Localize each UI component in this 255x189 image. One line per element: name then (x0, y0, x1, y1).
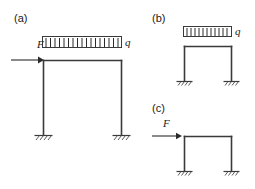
load-label-b: q (235, 25, 241, 37)
support-c-right (224, 172, 240, 176)
panel-a-point-load: F (11, 38, 44, 63)
load-label-a: q (125, 36, 131, 48)
load-ticks-b (187, 28, 227, 36)
panel-a: (a) q (11, 12, 131, 140)
frame-superposition-figure: (a) q (0, 0, 255, 189)
force-arrow-head-c (176, 133, 182, 139)
panel-a-distributed-load: q (43, 36, 132, 48)
panel-a-label: (a) (14, 12, 27, 24)
panel-c-label: (c) (152, 102, 165, 114)
load-ticks-a (46, 38, 118, 47)
panel-b-distributed-load: q (184, 25, 242, 37)
force-label-c: F (162, 117, 170, 129)
panel-c-point-load: F (152, 117, 182, 139)
support-a-left (35, 136, 53, 141)
panel-b: (b) q (152, 12, 241, 86)
support-b-right (224, 82, 240, 86)
support-c-left (177, 172, 193, 176)
panel-b-label: (b) (152, 12, 165, 24)
panel-c: (c) F (152, 102, 240, 176)
support-b-left (177, 82, 193, 86)
force-label-a: F (36, 38, 44, 50)
support-a-right (113, 136, 131, 141)
